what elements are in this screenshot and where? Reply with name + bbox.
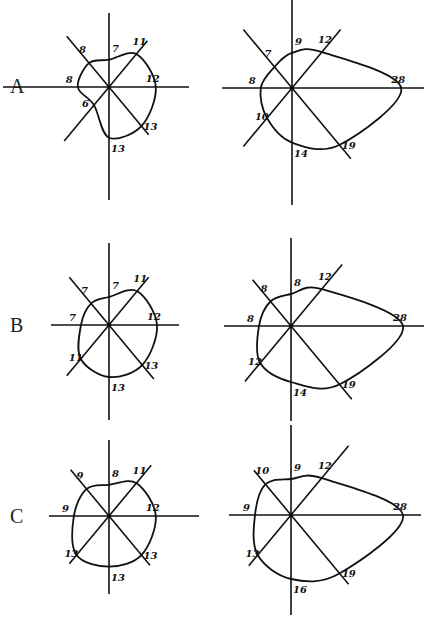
value-label-down-left: 11 [69,352,83,363]
value-label-down-left: 10 [255,111,269,122]
axis-line-d2 [243,29,351,158]
value-label-down-right: 19 [342,379,356,390]
diagram-b-right: 8122819141288 [224,238,424,421]
value-label-up-left: 7 [81,285,88,296]
value-label-up-left: 8 [79,44,86,55]
diagram-a-left: 711121313688 [3,13,189,200]
value-label-left: 7 [69,312,76,323]
row-label-c: C [10,505,23,527]
center-point [107,514,111,518]
field-boundary-curve [254,476,404,582]
value-label-up-left: 9 [76,470,83,481]
value-label-up: 7 [112,43,119,54]
value-label-up: 8 [294,277,301,288]
value-label-right: 12 [146,502,160,513]
center-point [289,513,293,517]
center-point [289,324,293,328]
value-label-down-left: 13 [246,548,260,559]
value-label-down: 13 [111,572,125,583]
value-label-up-right: 11 [133,36,147,47]
value-label-up: 8 [112,468,119,479]
diagram-c-right: 91228191613910 [229,425,421,615]
center-point [107,85,111,89]
value-label-right: 28 [392,312,407,323]
value-label-up-right: 11 [133,273,147,284]
diagram-b-left: 7111213131177 [51,243,179,420]
value-label-down-right: 13 [144,550,158,561]
value-label-up-right: 12 [318,34,332,45]
value-label-up-left: 7 [264,48,271,59]
value-label-left: 9 [243,502,250,513]
value-label-right: 28 [390,74,405,85]
value-label-down-right: 19 [342,568,356,579]
value-label-down-left: 12 [248,356,262,367]
value-label-down: 13 [111,382,125,393]
center-point [290,86,294,90]
value-label-up-right: 12 [318,460,332,471]
value-label-down: 13 [111,143,125,154]
value-label-right: 12 [146,73,160,84]
diagram-a-right: 9122819141087 [222,0,424,205]
value-label-left: 8 [247,313,254,324]
value-label-right: 28 [392,501,407,512]
value-label-left: 9 [62,503,69,514]
polar-diagram-figure: A B C 711121313688 9122819141087 7111213… [0,0,435,625]
axis-line-d1 [64,41,147,141]
value-label-down-left: 6 [82,98,89,109]
value-label-right: 12 [147,311,161,322]
diagram-c-left: 8111213131399 [49,440,199,594]
value-label-left: 8 [249,75,256,86]
value-label-down-left: 13 [64,548,78,559]
axis-line-d2 [253,280,352,399]
value-label-up: 9 [294,462,301,473]
value-label-up-right: 11 [133,465,147,476]
value-label-down-right: 13 [144,121,158,132]
row-label-b: B [10,314,23,336]
value-label-down: 14 [293,387,307,398]
value-label-up-left: 8 [260,283,267,294]
value-label-up: 7 [112,280,119,291]
value-label-down: 14 [294,148,308,159]
center-point [107,323,111,327]
value-label-up: 9 [295,36,302,47]
value-label-down: 16 [293,584,307,595]
value-label-down-right: 13 [144,360,158,371]
value-label-down-right: 19 [342,140,356,151]
value-label-up-left: 10 [255,465,269,476]
row-label-a: A [10,75,25,97]
value-label-up-right: 12 [318,271,332,282]
value-label-left: 8 [66,74,73,85]
